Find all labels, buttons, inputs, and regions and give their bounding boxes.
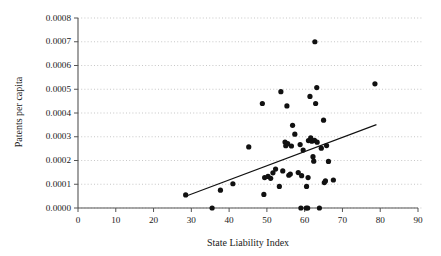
x-tick-label: 50: [262, 215, 272, 225]
data-point: [218, 188, 223, 193]
y-tick-label: 0.0005: [46, 84, 72, 94]
data-points-group: [183, 39, 377, 210]
data-point: [307, 94, 312, 99]
data-point: [331, 177, 336, 182]
data-point: [319, 146, 324, 151]
data-point: [292, 132, 297, 137]
data-point: [315, 140, 320, 145]
data-point: [230, 181, 235, 186]
data-point: [268, 176, 273, 181]
data-point: [289, 143, 294, 148]
y-tick-label: 0.0004: [46, 108, 72, 118]
data-point: [312, 39, 317, 44]
data-point: [317, 205, 322, 210]
data-point: [284, 103, 289, 108]
y-tick-label: 0.0007: [46, 36, 72, 46]
data-point: [280, 168, 285, 173]
data-point: [372, 81, 377, 86]
x-tick-label: 60: [300, 215, 310, 225]
x-axis-title: State Liability Index: [207, 237, 289, 248]
x-tick-label: 20: [149, 215, 159, 225]
y-tick-marks: [74, 18, 78, 208]
x-axis: 0102030405060708090: [76, 208, 423, 225]
data-point: [260, 101, 265, 106]
chart-canvas: 0102030405060708090 0.00000.00010.00020.…: [0, 0, 441, 256]
x-tick-label: 90: [413, 215, 423, 225]
data-point: [326, 159, 331, 164]
x-tick-label: 30: [187, 215, 197, 225]
data-point: [277, 184, 282, 189]
y-tick-label: 0.0003: [46, 131, 72, 141]
x-tick-label: 10: [111, 215, 121, 225]
data-point: [323, 178, 328, 183]
gridlines-group: [78, 18, 422, 208]
y-tick-label: 0.0008: [46, 13, 72, 23]
data-point: [299, 173, 304, 178]
data-point: [304, 184, 309, 189]
scatter-chart: 0102030405060708090 0.00000.00010.00020.…: [0, 0, 441, 256]
x-tick-marks: [78, 208, 418, 212]
data-point: [311, 159, 316, 164]
data-point: [313, 101, 318, 106]
y-tick-label: 0.0002: [46, 155, 72, 165]
y-tick-label: 0.0006: [46, 60, 72, 70]
y-tick-label: 0.0000: [46, 203, 72, 213]
y-axis-title: Patents per capita: [13, 76, 24, 147]
data-point: [305, 175, 310, 180]
data-point: [305, 205, 310, 210]
x-tick-labels: 0102030405060708090: [76, 215, 423, 225]
data-point: [288, 171, 293, 176]
data-point: [261, 192, 266, 197]
data-point: [246, 144, 251, 149]
data-point: [298, 205, 303, 210]
data-point: [210, 205, 215, 210]
x-tick-label: 80: [376, 215, 386, 225]
y-axis: 0.00000.00010.00020.00030.00040.00050.00…: [46, 13, 78, 213]
data-point: [321, 118, 326, 123]
data-point: [290, 123, 295, 128]
data-point: [324, 143, 329, 148]
x-tick-label: 0: [76, 215, 81, 225]
data-point: [310, 154, 315, 159]
data-point: [273, 166, 278, 171]
x-tick-label: 70: [338, 215, 348, 225]
data-point: [301, 147, 306, 152]
y-tick-labels: 0.00000.00010.00020.00030.00040.00050.00…: [46, 13, 72, 213]
data-point: [183, 192, 188, 197]
y-tick-label: 0.0001: [46, 179, 72, 189]
x-tick-label: 40: [225, 215, 235, 225]
data-point: [278, 89, 283, 94]
data-point: [314, 85, 319, 90]
data-point: [298, 142, 303, 147]
